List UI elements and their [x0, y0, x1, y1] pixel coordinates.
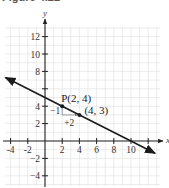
x-tick-label: -4: [7, 145, 15, 155]
y-tick-label: 4: [35, 102, 40, 112]
x-tick-label: 4: [77, 145, 82, 155]
y-axis-label: y: [42, 8, 47, 18]
point-label-q: (4, 3): [84, 104, 108, 117]
data-point: [60, 104, 64, 108]
x-tick-label: 10: [126, 145, 136, 155]
y-tick-label: 10: [31, 50, 41, 60]
chart: xy-4-2246810−4−22481012P(2, 4)(4, 3)−1+2: [0, 0, 169, 188]
x-axis-label: x: [165, 135, 169, 145]
x-tick-label: 2: [60, 145, 65, 155]
y-tick-label: −2: [30, 154, 40, 164]
x-tick-label: 8: [111, 145, 116, 155]
x-tick-label: 6: [94, 145, 99, 155]
y-tick-label: 12: [31, 32, 41, 42]
y-tick-label: 2: [35, 119, 40, 129]
data-point: [77, 113, 81, 117]
run-label: +2: [64, 118, 74, 128]
y-tick-label: 8: [35, 67, 40, 77]
y-tick-label: −4: [30, 171, 40, 181]
rise-label: −1: [50, 106, 60, 116]
